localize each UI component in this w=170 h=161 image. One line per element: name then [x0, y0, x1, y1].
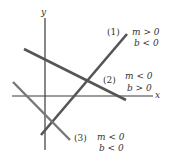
line-3-intercept: b < 0: [99, 143, 124, 153]
line-1-label: (1): [107, 27, 120, 37]
line-2-intercept: b > 0: [127, 83, 152, 93]
line-2-label: (2): [103, 75, 116, 85]
line-1-intercept: b < 0: [134, 38, 159, 48]
line-2-slope: m < 0: [125, 71, 153, 81]
y-axis-label: y: [40, 7, 47, 17]
line-3-label: (3): [74, 133, 87, 143]
slope-intercept-diagram: y x (1) m > 0 b < 0 (2) m < 0 b > 0 (3) …: [0, 0, 170, 161]
x-axis-label: x: [155, 90, 160, 100]
line-1-slope: m > 0: [132, 27, 160, 37]
line-3-slope: m < 0: [97, 132, 125, 142]
